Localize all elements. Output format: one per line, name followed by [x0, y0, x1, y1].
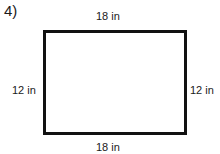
right-side-label: 12 in [190, 84, 214, 96]
top-side-label: 18 in [96, 10, 120, 22]
bottom-side-label: 18 in [96, 141, 120, 153]
rectangle-shape [43, 30, 187, 135]
problem-number: 4) [4, 2, 17, 19]
left-side-label: 12 in [12, 84, 36, 96]
